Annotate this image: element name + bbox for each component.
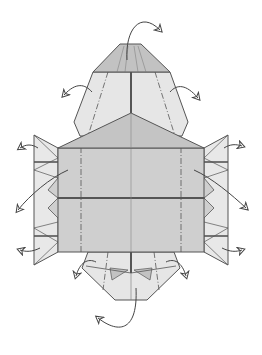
bottom-flap bbox=[82, 252, 180, 300]
top-flap bbox=[93, 44, 170, 72]
right-side-pleats bbox=[204, 135, 228, 265]
main-panel bbox=[58, 136, 204, 252]
left-side-pleats bbox=[34, 135, 58, 265]
origami-diagram bbox=[0, 0, 262, 355]
